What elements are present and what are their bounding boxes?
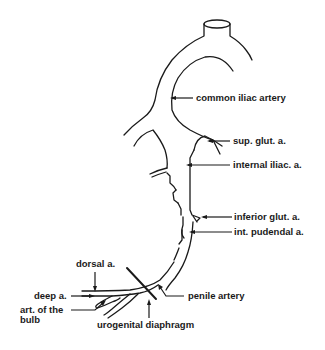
label-dorsal-a: dorsal a. xyxy=(76,259,115,269)
leader-int-pudendal xyxy=(189,230,232,234)
label-art-of-the-bulb-line2: bulb xyxy=(20,315,40,325)
label-urogenital-diaphragm: urogenital diaphragm xyxy=(97,320,194,330)
label-common-iliac-artery: common iliac artery xyxy=(196,93,286,103)
leader-internal-iliac xyxy=(186,163,230,167)
internal-iliac-artery xyxy=(134,130,200,221)
leader-urogenital xyxy=(147,299,151,318)
label-internal-iliac-a: internal iliac. a. xyxy=(233,160,302,170)
label-deep-a: deep a. xyxy=(34,291,67,301)
inferior-gluteal-artery xyxy=(182,216,197,238)
leader-inferior-glut xyxy=(201,215,232,219)
leader-common-iliac xyxy=(170,96,193,100)
leader-penile xyxy=(158,284,184,296)
superior-gluteal-artery xyxy=(194,136,222,150)
leader-deep xyxy=(71,294,95,298)
label-penile-artery: penile artery xyxy=(188,291,245,301)
label-inferior-glut-a: inferior glut. a. xyxy=(234,212,300,222)
leader-dorsal xyxy=(93,272,97,292)
aorta xyxy=(124,20,252,135)
label-sup-glut-a: sup. glut. a. xyxy=(233,136,286,146)
common-iliac-artery xyxy=(172,57,233,154)
label-int-pudendal-a: int. pudendal a. xyxy=(234,227,304,237)
